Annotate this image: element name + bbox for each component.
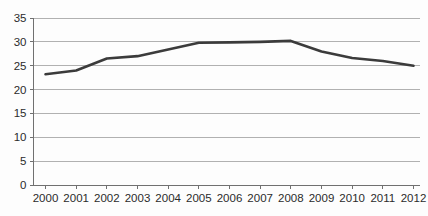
x-tick-label: 2004: [155, 192, 181, 204]
y-tick-label: 35: [14, 12, 27, 24]
x-tick-label: 2002: [94, 192, 120, 204]
y-tick-label: 5: [20, 155, 26, 167]
x-tick-marks-group: [46, 185, 414, 189]
line-chart: 05101520253035 2000200120022003200420052…: [0, 0, 428, 216]
x-tick-label: 2003: [125, 192, 151, 204]
x-tick-label: 2007: [247, 192, 273, 204]
x-tick-label: 2011: [370, 192, 395, 204]
y-tick-marks-group: [30, 18, 34, 185]
y-tick-label: 25: [14, 60, 27, 72]
x-tick-label: 2012: [401, 192, 427, 204]
y-tick-label: 20: [14, 84, 27, 96]
x-tick-label: 2001: [63, 192, 89, 204]
x-tick-label: 2009: [309, 192, 335, 204]
x-tick-label: 2010: [339, 192, 365, 204]
y-axis-tick-labels: 05101520253035: [14, 12, 27, 191]
chart-canvas: 05101520253035 2000200120022003200420052…: [0, 0, 428, 216]
y-tick-label: 10: [14, 131, 27, 143]
y-tick-label: 15: [14, 107, 27, 119]
x-tick-label: 2008: [278, 192, 304, 204]
y-tick-label: 30: [14, 36, 27, 48]
x-axis-tick-labels: 2000200120022003200420052006200720082009…: [33, 192, 427, 204]
x-tick-label: 2000: [33, 192, 59, 204]
y-tick-label: 0: [20, 179, 26, 191]
x-tick-label: 2006: [217, 192, 243, 204]
x-tick-label: 2005: [186, 192, 212, 204]
data-series-line: [46, 41, 414, 74]
